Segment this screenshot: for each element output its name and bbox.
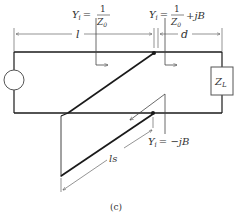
svg-text:Yi=: Yi=	[72, 9, 91, 22]
length-l-label: l	[76, 28, 80, 41]
stub-bottom-conductor	[61, 114, 153, 176]
admittance-label-right: Yi= 1 Z0 +jB	[149, 4, 205, 28]
stub-top-conductor	[68, 53, 154, 113]
svg-text:Z0: Z0	[96, 17, 107, 28]
admittance-label-stub: Yi= −jB	[148, 136, 189, 149]
figure-caption: (c)	[110, 202, 122, 212]
junction-dot-top	[152, 51, 156, 55]
transmission-line: ZL	[4, 52, 233, 113]
length-d-label: d	[181, 28, 188, 41]
source-icon	[4, 70, 24, 90]
junction-dot-bottom	[151, 111, 155, 115]
svg-text:Yi= −jB: Yi= −jB	[148, 136, 189, 149]
stub-matching-diagram: ZL l d ls Yi= 1	[0, 0, 237, 216]
reference-planes	[96, 18, 177, 134]
svg-text:+jB: +jB	[186, 10, 205, 21]
admittance-label-left: Yi= 1 Z0	[72, 4, 110, 28]
svg-text:Z0: Z0	[170, 17, 181, 28]
length-ls-label: ls	[109, 153, 117, 164]
svg-text:1: 1	[100, 4, 106, 14]
svg-text:1: 1	[174, 4, 180, 14]
